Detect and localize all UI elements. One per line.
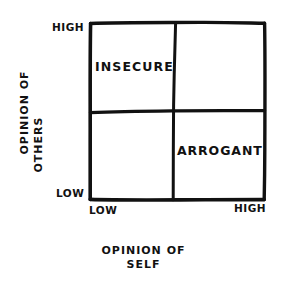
matrix-border-top [91,22,265,23]
x-axis-tick-low: LOW [89,205,117,216]
quadrant-label-insecure: INSECURE [95,60,174,73]
y-axis-tick-low: LOW [56,188,84,199]
quadrant-matrix-figure: INSECURE ARROGANT HIGH LOW LOW HIGH OPIN… [0,0,287,292]
y-axis-tick-high: HIGH [52,22,84,33]
y-axis-title-line-2: OTHERS [32,105,45,185]
x-axis-title: OPINION OF SELF [0,245,287,270]
x-axis-title-line-2: SELF [0,259,287,271]
quadrant-label-arrogant: ARROGANT [177,144,263,157]
matrix-divider-vertical [173,23,175,200]
matrix-border-right [264,23,265,199]
x-axis-tick-high: HIGH [234,203,266,214]
matrix-border-bottom [90,199,264,200]
y-axis-title-line-1: OPINION OF [18,75,31,155]
matrix-divider-horizontal [90,111,264,113]
x-axis-title-line-1: OPINION OF [101,244,185,257]
